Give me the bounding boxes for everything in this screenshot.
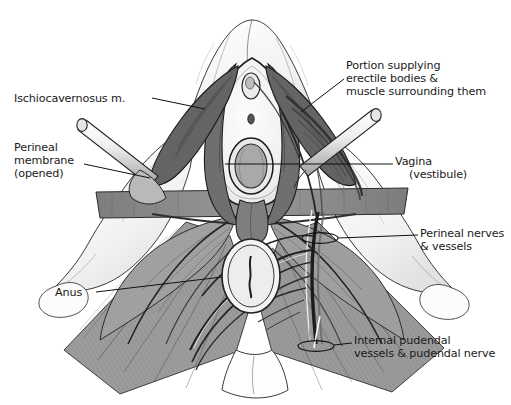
label-line: & vessels [420,240,504,253]
label-line: Ischiocavernosus m. [14,92,125,105]
label-line: (opened) [14,167,74,180]
ischial-tuberosity-right [420,285,469,320]
label-perineal-membrane: Perineal membrane (opened) [14,141,74,181]
label-vagina-vestibule: Vagina (vestibule) [395,155,467,181]
label-line: Portion supplying [346,59,486,72]
label-line: vessels & pudendal nerve [354,347,495,360]
label-line: Perineal nerves [420,227,504,240]
label-line: membrane [14,154,74,167]
label-line: Vagina [395,155,467,168]
label-internal-pudendal-vessels-nerve: Internal pudendal vessels & pudendal ner… [354,334,495,360]
anatomical-figure: Ischiocavernosus m. Perineal membrane (o… [0,0,511,405]
label-line: muscle surrounding them [346,85,486,98]
label-line: (vestibule) [395,168,467,181]
label-line: Perineal [14,141,74,154]
urethral-orifice [248,114,254,124]
label-perineal-nerves-vessels: Perineal nerves & vessels [420,227,504,253]
label-anus: Anus [55,286,82,299]
label-line: erectile bodies & [346,72,486,85]
label-line: Anus [55,286,82,299]
vaginal-orifice [229,138,273,194]
label-ischiocavernosus-m: Ischiocavernosus m. [14,92,125,105]
label-line: Internal pudendal [354,334,495,347]
anus [222,239,280,313]
label-portion-supplying-erectile-bodies: Portion supplying erectile bodies & musc… [346,59,486,99]
coccyx [222,350,288,398]
